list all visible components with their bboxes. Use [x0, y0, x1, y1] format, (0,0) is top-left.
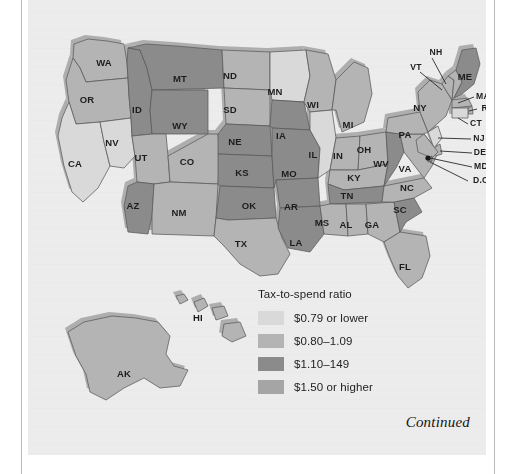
state-label-nv: NV — [105, 137, 119, 148]
state-label-mn: MN — [267, 86, 282, 97]
state-label-nm: NM — [171, 207, 186, 218]
legend-row-1: $0.80–1.09 — [258, 334, 458, 348]
state-label-wv: WV — [373, 158, 389, 169]
state-label-az: AZ — [126, 200, 139, 211]
continued-note: Continued — [0, 414, 470, 431]
state-label-ma: MA — [476, 91, 486, 101]
legend-title: Tax-to-spend ratio — [258, 288, 458, 300]
map-legend: Tax-to-spend ratio $0.79 or lower $0.80–… — [258, 288, 458, 403]
state-label-ne: NE — [228, 136, 242, 147]
state-ak[interactable] — [68, 316, 188, 400]
page-rule-left — [21, 0, 22, 474]
state-label-ri: RI — [482, 103, 487, 113]
legend-row-2: $1.10–149 — [258, 357, 458, 371]
legend-label-3: $1.50 or higher — [294, 381, 373, 393]
state-ma[interactable] — [452, 98, 472, 108]
state-label-nj: NJ — [473, 133, 484, 143]
state-label-va: VA — [399, 163, 412, 174]
state-label-wi: WI — [307, 99, 319, 110]
state-label-ak: AK — [117, 368, 131, 379]
state-label-la: LA — [289, 237, 302, 248]
state-label-co: CO — [180, 156, 195, 167]
leader-line-ct — [458, 118, 468, 124]
state-label-mi: MI — [343, 119, 354, 130]
state-label-pa: PA — [399, 129, 412, 140]
state-label-vt: VT — [410, 62, 422, 72]
state-label-sc: SC — [393, 204, 407, 215]
state-label-ar: AR — [284, 201, 298, 212]
state-label-wa: WA — [96, 57, 112, 68]
state-hi[interactable] — [176, 294, 188, 304]
legend-swatch-3 — [258, 380, 284, 394]
state-label-ks: KS — [235, 167, 249, 178]
state-ct[interactable] — [452, 108, 468, 118]
state-label-ia: IA — [276, 130, 286, 141]
state-label-tx: TX — [235, 238, 248, 249]
state-label-mo: MO — [281, 168, 297, 179]
state-label-al: AL — [339, 219, 352, 230]
state-label-dc: D.C. — [473, 175, 486, 185]
state-label-hi: HI — [193, 312, 203, 323]
legend-row-3: $1.50 or higher — [258, 380, 458, 394]
state-label-ky: KY — [347, 172, 361, 183]
state-label-oh: OH — [357, 144, 372, 155]
legend-label-1: $0.80–1.09 — [294, 335, 353, 347]
state-label-wy: WY — [172, 120, 188, 131]
state-label-id: ID — [132, 104, 142, 115]
state-label-ut: UT — [134, 152, 147, 163]
state-label-nc: NC — [400, 182, 414, 193]
figure-page: WAORCANVIDMTWYUTCOAZNMNDSDNEKSOKTXMNIAMO… — [0, 0, 512, 474]
state-label-ca: CA — [68, 158, 82, 169]
state-label-sd: SD — [223, 104, 237, 115]
state-label-mt: MT — [173, 73, 187, 84]
legend-row-0: $0.79 or lower — [258, 311, 458, 325]
state-label-me: ME — [458, 71, 473, 82]
legend-swatch-2 — [258, 357, 284, 371]
state-ia[interactable] — [270, 100, 310, 130]
state-label-il: IL — [309, 149, 318, 160]
state-label-nh: NH — [430, 47, 443, 57]
legend-label-0: $0.79 or lower — [294, 312, 368, 324]
state-label-ny: NY — [413, 102, 427, 113]
state-ne[interactable] — [218, 124, 272, 156]
state-label-ok: OK — [242, 200, 257, 211]
page-rule-right — [494, 0, 495, 474]
state-label-ga: GA — [365, 219, 380, 230]
state-label-ct: CT — [470, 118, 482, 128]
leader-line-de — [440, 151, 472, 153]
state-label-or: OR — [80, 94, 95, 105]
state-label-nd: ND — [223, 70, 237, 81]
state-label-fl: FL — [399, 261, 411, 272]
state-label-de: DE — [474, 147, 486, 157]
state-label-ms: MS — [315, 217, 330, 228]
state-hi[interactable] — [212, 306, 228, 320]
state-label-in: IN — [333, 150, 343, 161]
state-label-tn: TN — [340, 190, 353, 201]
dc-marker-dot — [425, 155, 430, 160]
legend-swatch-1 — [258, 334, 284, 348]
state-label-md: MD — [474, 161, 486, 171]
legend-swatch-0 — [258, 311, 284, 325]
state-hi[interactable] — [222, 322, 246, 342]
legend-label-2: $1.10–149 — [294, 358, 349, 370]
leader-line-nj — [438, 138, 471, 139]
